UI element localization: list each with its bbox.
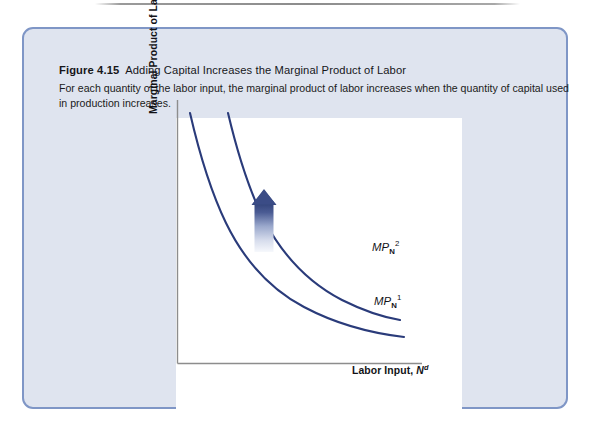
- curve-mpn2: [228, 113, 400, 320]
- curve-label-mpn2: MPN2: [372, 239, 400, 256]
- curve-mpn1: [190, 113, 404, 337]
- figure-number: Figure 4.15: [59, 64, 119, 76]
- figure-title: Figure 4.15 Adding Capital Increases the…: [59, 63, 579, 78]
- curve-label-mpn1: MPN1: [374, 293, 402, 310]
- axes: [178, 100, 423, 364]
- chart-canvas: [152, 89, 438, 383]
